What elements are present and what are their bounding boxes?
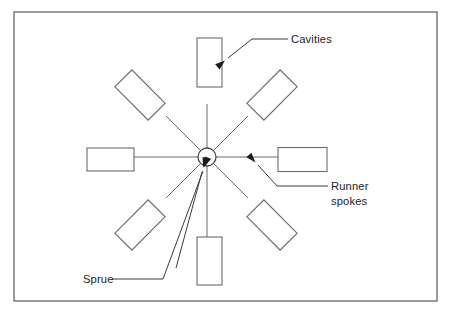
figure-root: Cavities Runner spokes Sprue [0,0,450,316]
label-sprue: Sprue [83,273,114,285]
label-cavities: Cavities [291,33,332,45]
cavity-e [278,148,327,172]
cavity-s [197,237,222,285]
label-runner-spokes-line1: Runner [331,180,369,192]
cavity-w [87,148,134,171]
mold-runner-diagram: Cavities Runner spokes Sprue [0,0,450,316]
label-runner-spokes-line2: spokes [331,195,368,207]
cavity-n [197,38,222,87]
